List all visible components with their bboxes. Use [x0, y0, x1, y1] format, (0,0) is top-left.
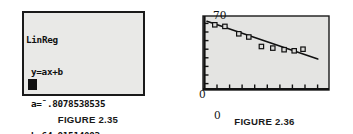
calc-line-title: LinReg [26, 35, 141, 46]
data-point [237, 32, 241, 36]
calc-line-intercept: b=64.91514093 [26, 131, 141, 134]
y-axis-max-label: 70 [213, 10, 226, 21]
calc-slope-value: ¯.8078538535 [42, 98, 106, 109]
y-axis-min-label: 0 [199, 89, 206, 100]
data-point [282, 48, 286, 52]
figure-caption: FIGURE 2.36 [176, 116, 353, 127]
data-point [247, 35, 251, 39]
data-point [301, 47, 305, 51]
calc-slope-label: a= [31, 98, 42, 109]
data-point [292, 49, 296, 53]
data-point [223, 24, 227, 28]
calc-intercept-label: b= [31, 130, 42, 134]
calc-line-slope: a=¯.8078538535 [26, 99, 141, 110]
figure-2-36: 70 0 0 50 FIGURE 2.36 [176, 0, 353, 134]
cursor-block-icon [28, 79, 37, 90]
calculator-screen: LinReg y=ax+b a=¯.8078538535 b=64.915140… [22, 11, 145, 96]
data-point [271, 46, 275, 50]
data-point [259, 44, 263, 48]
calc-line-model: y=ax+b [26, 67, 141, 78]
figure-caption: FIGURE 2.35 [0, 114, 176, 125]
figure-2-35: LinReg y=ax+b a=¯.8078538535 b=64.915140… [0, 0, 176, 134]
data-point [213, 23, 217, 27]
figures-row: LinReg y=ax+b a=¯.8078538535 b=64.915140… [0, 0, 353, 134]
calc-intercept-value: 64.91514093 [42, 130, 100, 134]
scatter-plot-svg [193, 10, 333, 100]
scatter-plot: 70 0 0 50 [193, 10, 333, 100]
